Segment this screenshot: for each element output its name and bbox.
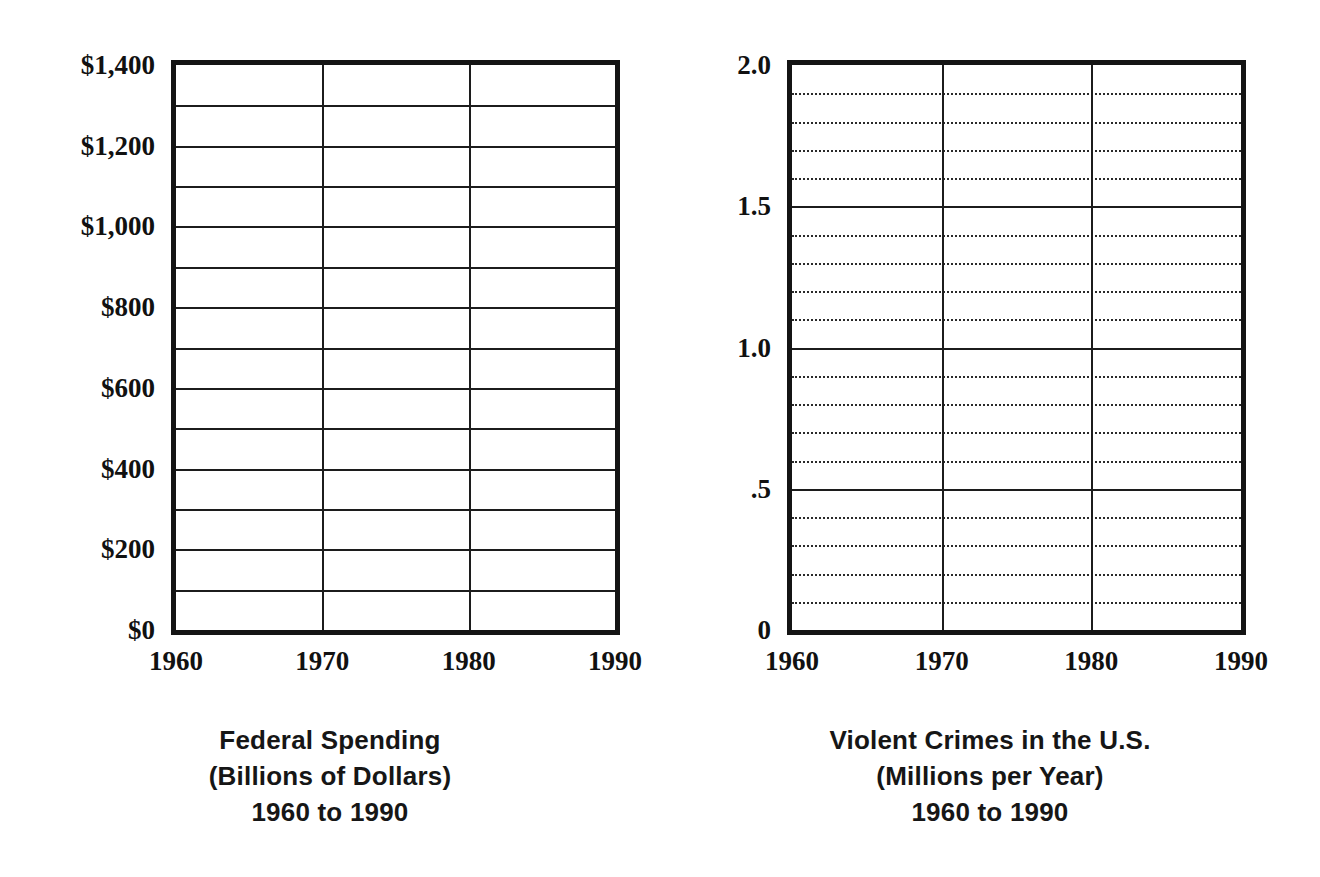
- gridline-vertical: [942, 65, 944, 630]
- y-tick-label: $0: [0, 617, 155, 644]
- x-tick-label: 1990: [1176, 648, 1306, 675]
- gridline-horizontal-minor: [792, 291, 1241, 293]
- x-tick-label: 1980: [1026, 648, 1156, 675]
- gridline-horizontal-minor: [792, 178, 1241, 180]
- caption-line-title: Violent Crimes in the U.S.: [660, 723, 1320, 759]
- gridline-horizontal-minor: [792, 235, 1241, 237]
- gridline-horizontal-minor: [792, 263, 1241, 265]
- gridline-horizontal-major: [176, 307, 615, 309]
- gridline-horizontal-minor: [792, 319, 1241, 321]
- y-tick-label: 2.0: [611, 52, 771, 79]
- y-tick-label: $200: [0, 536, 155, 563]
- y-tick-label: 0: [611, 617, 771, 644]
- chart-caption-violent-crimes: Violent Crimes in the U.S. (Millions per…: [660, 723, 1320, 831]
- gridline-vertical: [322, 65, 324, 630]
- gridline-horizontal-minor: [792, 93, 1241, 95]
- gridline-vertical: [1091, 65, 1093, 630]
- gridline-horizontal-minor: [792, 376, 1241, 378]
- gridline-horizontal-major: [792, 348, 1241, 350]
- chart-caption-federal-spending: Federal Spending (Billions of Dollars) 1…: [0, 723, 660, 831]
- y-tick-label: $800: [0, 294, 155, 321]
- y-tick-label: $400: [0, 455, 155, 482]
- gridlines-federal-spending: [176, 65, 615, 630]
- y-tick-label: $600: [0, 374, 155, 401]
- chart-panel-violent-crimes: 0.51.01.52.0 1960197019801990 Violent Cr…: [660, 0, 1320, 877]
- x-tick-label: 1970: [877, 648, 1007, 675]
- caption-line-subtitle: (Millions per Year): [660, 759, 1320, 795]
- y-tick-label: 1.5: [611, 193, 771, 220]
- y-tick-label: $1,000: [0, 213, 155, 240]
- gridline-horizontal-major: [176, 590, 615, 592]
- gridline-horizontal-minor: [792, 574, 1241, 576]
- gridline-horizontal-minor: [792, 517, 1241, 519]
- gridline-horizontal-minor: [792, 602, 1241, 604]
- y-tick-label: $1,400: [0, 52, 155, 79]
- caption-line-period: 1960 to 1990: [660, 795, 1320, 831]
- gridline-horizontal-major: [176, 428, 615, 430]
- chart-panel-federal-spending: $0$200$400$600$800$1,000$1,200$1,400 196…: [0, 0, 660, 877]
- caption-line-title: Federal Spending: [0, 723, 660, 759]
- y-tick-label: $1,200: [0, 132, 155, 159]
- caption-line-period: 1960 to 1990: [0, 795, 660, 831]
- gridline-horizontal-major: [176, 469, 615, 471]
- gridline-horizontal-minor: [792, 432, 1241, 434]
- gridline-horizontal-major: [176, 146, 615, 148]
- gridline-horizontal-minor: [792, 545, 1241, 547]
- gridline-horizontal-major: [176, 186, 615, 188]
- gridline-horizontal-minor: [792, 404, 1241, 406]
- gridline-horizontal-minor: [792, 150, 1241, 152]
- x-tick-label: 1960: [111, 648, 241, 675]
- plot-area-violent-crimes: [787, 60, 1246, 635]
- gridline-horizontal-major: [176, 267, 615, 269]
- gridline-horizontal-major: [176, 226, 615, 228]
- x-tick-label: 1970: [257, 648, 387, 675]
- gridline-vertical: [469, 65, 471, 630]
- gridline-horizontal-minor: [792, 122, 1241, 124]
- plot-area-federal-spending: [171, 60, 620, 635]
- gridline-horizontal-major: [176, 549, 615, 551]
- gridline-horizontal-major: [176, 348, 615, 350]
- worksheet-page: $0$200$400$600$800$1,000$1,200$1,400 196…: [0, 0, 1320, 877]
- gridline-horizontal-major: [792, 489, 1241, 491]
- caption-line-subtitle: (Billions of Dollars): [0, 759, 660, 795]
- gridline-horizontal-major: [176, 105, 615, 107]
- gridline-horizontal-minor: [792, 461, 1241, 463]
- x-tick-label: 1980: [404, 648, 534, 675]
- gridline-horizontal-major: [792, 206, 1241, 208]
- gridline-horizontal-major: [176, 388, 615, 390]
- x-tick-label: 1960: [727, 648, 857, 675]
- gridline-horizontal-major: [176, 509, 615, 511]
- y-tick-label: 1.0: [611, 334, 771, 361]
- y-tick-label: .5: [611, 475, 771, 502]
- gridlines-violent-crimes: [792, 65, 1241, 630]
